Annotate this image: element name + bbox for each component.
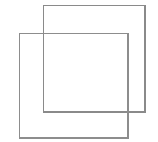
canvas-background	[0, 0, 158, 142]
figure-canvas	[0, 0, 158, 142]
overlapping-squares-diagram	[0, 0, 158, 142]
